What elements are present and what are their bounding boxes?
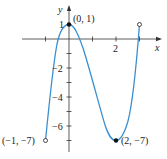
- left-open-endpoint-marker: [44, 139, 48, 143]
- y-tick-label-1: 1: [59, 19, 64, 30]
- x-axis-arrow-icon: [156, 37, 162, 41]
- y-axis: [67, 5, 72, 152]
- y-tick-label-neg6: −6: [52, 121, 63, 132]
- y-axis-label: y: [57, 4, 63, 15]
- y-tick-label-neg4: −4: [52, 92, 63, 103]
- y-axis-arrow-icon: [67, 5, 71, 11]
- y-tick-label-neg2: −2: [52, 63, 63, 74]
- left-endpoint-label: (−1, −7): [2, 135, 35, 147]
- x-axis-label: x: [154, 42, 160, 53]
- min-point-label: (2, −7): [121, 135, 148, 147]
- min-point-marker: [114, 138, 118, 142]
- x-axis: [22, 37, 162, 42]
- max-point-marker: [67, 22, 71, 26]
- right-open-endpoint-marker: [138, 23, 142, 27]
- max-point-label: (0, 1): [73, 13, 95, 25]
- graph: y x 2 1 −2 −4 −6 (0, 1) (2, −7) (−1, −7): [0, 0, 167, 159]
- x-tick-label-2: 2: [113, 43, 118, 54]
